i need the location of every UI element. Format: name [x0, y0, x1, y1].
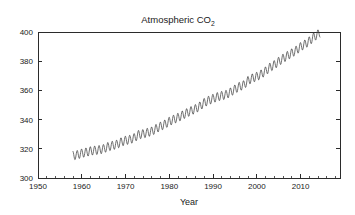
x-tick-label: 1970: [117, 182, 135, 191]
x-tick-label: 1960: [73, 182, 91, 191]
x-tick-label: 1950: [29, 182, 47, 191]
y-tick-label: 360: [20, 86, 34, 95]
x-tick-label: 1990: [204, 182, 222, 191]
chart-container: Atmospheric CO2 300320340360380400 19501…: [0, 0, 355, 215]
x-tick-label: 1980: [160, 182, 178, 191]
y-tick-label: 380: [20, 57, 34, 66]
x-tick-label: 2010: [292, 182, 310, 191]
y-tick-label: 320: [20, 145, 34, 154]
x-tick-label: 2000: [248, 182, 266, 191]
x-axis-title: Year: [180, 197, 198, 207]
chart-title-subscript: 2: [211, 20, 215, 27]
chart-title-main: Atmospheric CO: [141, 14, 211, 25]
y-tick-label: 340: [20, 116, 34, 125]
y-tick-label: 400: [20, 28, 34, 37]
co2-line-chart: Atmospheric CO2 300320340360380400 19501…: [0, 0, 355, 215]
chart-title: Atmospheric CO2: [141, 14, 215, 27]
